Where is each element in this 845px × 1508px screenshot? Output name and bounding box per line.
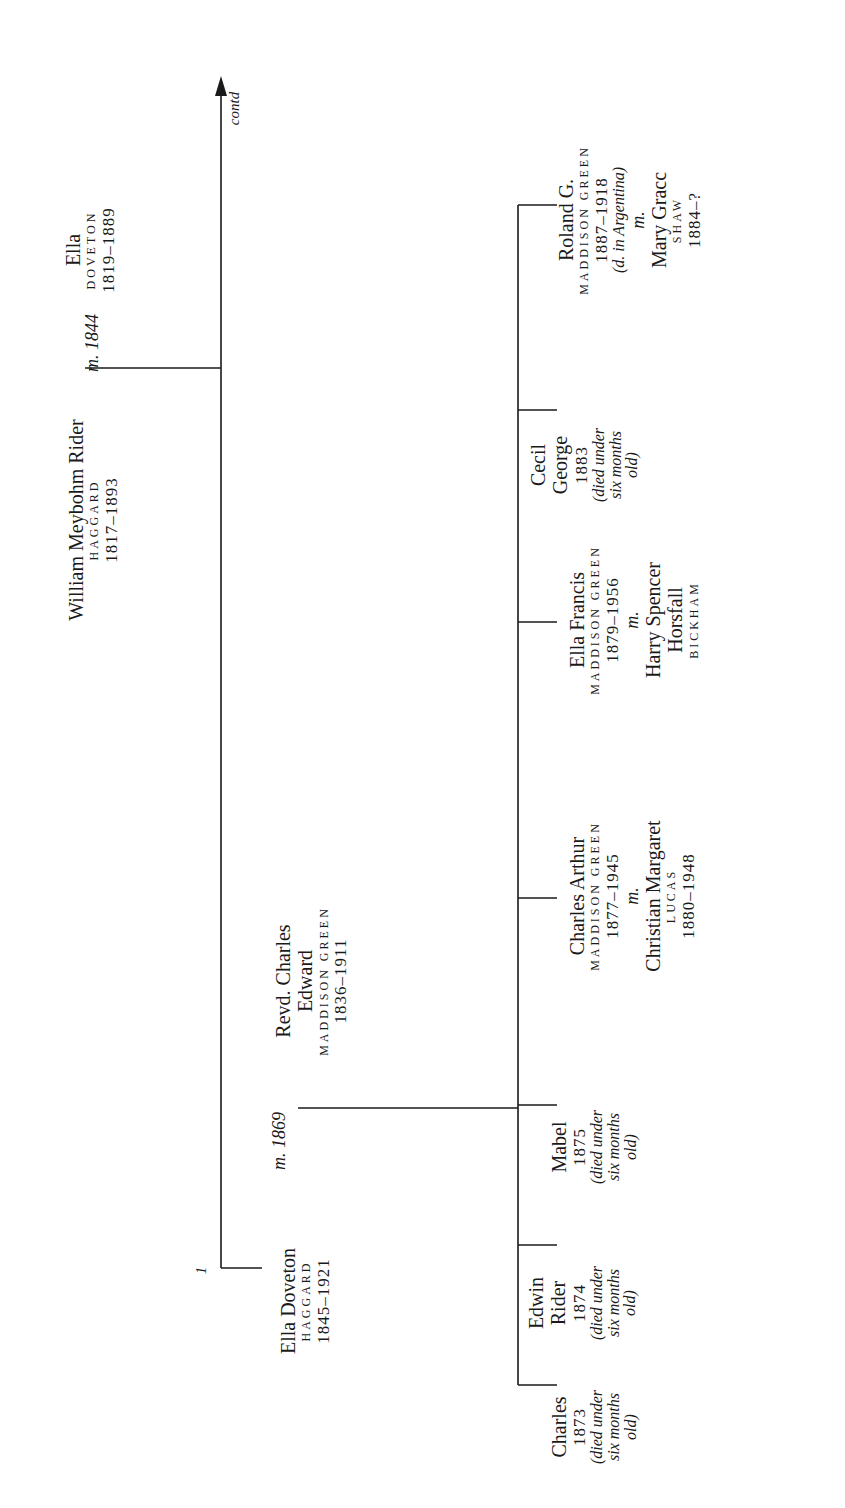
person-ella-doveton-haggard: Ella Doveton HAGGARD 1845–1921: [277, 1241, 349, 1361]
child-charles-arthur: Charles Arthur MADDISON GREEN 1877–1945 …: [566, 801, 734, 991]
child-mabel: Mabel 1875 (died under six months old): [548, 1087, 658, 1207]
child-ella-francis: Ella Francis MADDISON GREEN 1879–1956 m.…: [566, 525, 734, 715]
continuation-label: contd: [226, 89, 243, 129]
child-cecil-george: Cecil George 1883 (died under six months…: [527, 405, 657, 525]
marriage-label-1869: m. 1869: [269, 1106, 291, 1176]
child-roland-g: Roland G. MADDISON GREEN 1887–1918 (d. i…: [555, 125, 745, 315]
child-edwin-rider: Edwin Rider 1874 (died under six months …: [525, 1243, 655, 1363]
marker-number: 1: [193, 1266, 210, 1276]
person-ella-doveton: Ella DOVETON 1819–1889: [62, 195, 132, 305]
marriage-label-1844: m. 1844: [82, 308, 104, 378]
person-revd-charles-edward-maddison-green: Revd. Charles Edward MADDISON GREEN 1836…: [272, 896, 364, 1066]
child-charles: Charles 1873 (died under six months old): [548, 1367, 658, 1487]
person-william-meybohm-rider-haggard: William Meybohm Rider HAGGARD 1817–1893: [65, 400, 135, 640]
